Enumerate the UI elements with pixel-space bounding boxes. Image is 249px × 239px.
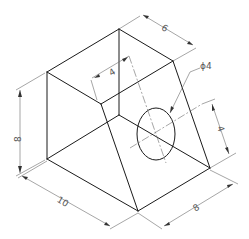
label-top-depth: 6 [160,22,170,34]
label-hole-diameter: ϕ4 [200,61,212,71]
hole-centerline-horizontal [130,104,202,148]
edge-inner-bottom-right [119,115,210,168]
edge-inner-bottom-left [47,115,119,159]
label-top-offset: 4 [107,66,117,78]
edge-top-left-back [47,29,119,72]
hole-centerline-vertical [129,56,166,163]
dimension-hole-height: 4 [202,99,236,168]
hole-circle [137,108,175,160]
label-bottom-depth: 8 [191,202,201,214]
edge-top-left-front [47,72,101,104]
edge-top-right-back [119,29,173,61]
edge-slope-right [173,61,210,168]
dimension-left-height: 8 [13,73,45,176]
edge-slope-front [101,104,138,211]
label-left-height: 8 [13,136,23,142]
dimension-top-depth: 6 [119,15,196,61]
dimension-top-offset: 4 [91,56,129,100]
dimension-bottom-length: 10 [18,161,138,229]
isometric-drawing: 6 4 ϕ4 4 8 10 [0,0,249,239]
dimension-bottom-depth: 8 [138,170,238,229]
leader-hole-diameter: ϕ4 [170,61,212,113]
label-hole-height: 4 [215,125,226,134]
